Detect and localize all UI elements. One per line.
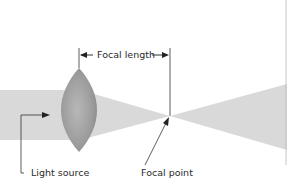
arrowhead-left-icon	[80, 52, 87, 58]
arrowhead-focal-point-icon	[163, 117, 169, 126]
focal-point-leader	[145, 121, 167, 165]
lens-diagram	[0, 0, 287, 185]
diverging-beam	[170, 84, 287, 150]
arrowhead-right-icon	[162, 52, 169, 58]
focal-length-label: Focal length	[97, 50, 155, 60]
focal-point-label: Focal point	[141, 168, 193, 178]
light-source-label: Light source	[31, 168, 89, 178]
